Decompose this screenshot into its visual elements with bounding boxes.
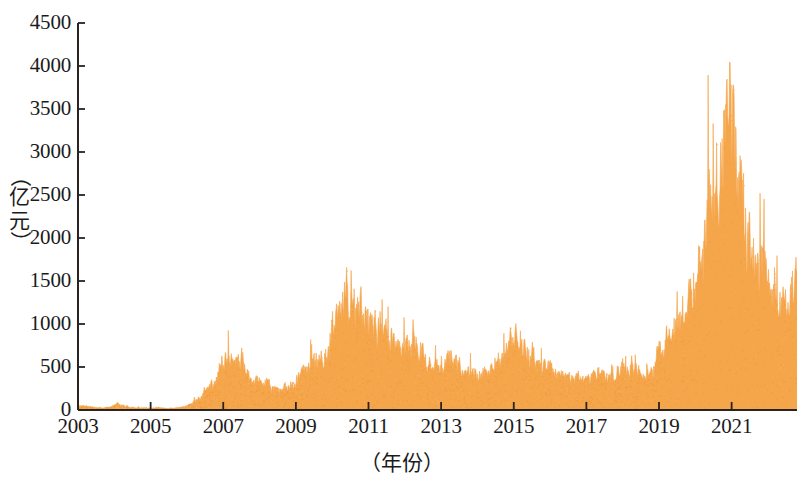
area-path (78, 62, 797, 410)
y-tick-label: 3000 (30, 139, 71, 164)
y-tick-label: 1000 (30, 311, 71, 336)
x-tick-label: 2017 (551, 414, 621, 439)
x-axis-label: （年份） (0, 446, 803, 476)
x-tick-label: 2021 (697, 414, 767, 439)
x-tick-label: 2005 (116, 414, 186, 439)
y-axis-label: （ 亿 元 ） (2, 168, 36, 250)
y-tick-label: 1500 (30, 268, 71, 293)
x-tick-label: 2013 (406, 414, 476, 439)
y-tick-label: 4000 (30, 53, 71, 78)
chart-plot-area (0, 0, 803, 481)
area-series (78, 62, 798, 411)
x-tick-label: 2007 (188, 414, 258, 439)
x-tick-label: 2019 (624, 414, 694, 439)
y-axis-label-open-paren: （ (11, 160, 28, 194)
x-tick-label: 2011 (334, 414, 404, 439)
chart-figure: 050010001500200025003000350040004500 200… (0, 0, 803, 481)
y-tick-label: 3500 (30, 96, 71, 121)
x-tick-label: 2015 (479, 414, 549, 439)
y-axis-label-close-paren: ） (11, 225, 28, 259)
y-tick-label: 500 (40, 354, 71, 379)
y-tick-label: 4500 (30, 10, 71, 35)
x-tick-label: 2009 (261, 414, 331, 439)
x-tick-label: 2003 (43, 414, 113, 439)
